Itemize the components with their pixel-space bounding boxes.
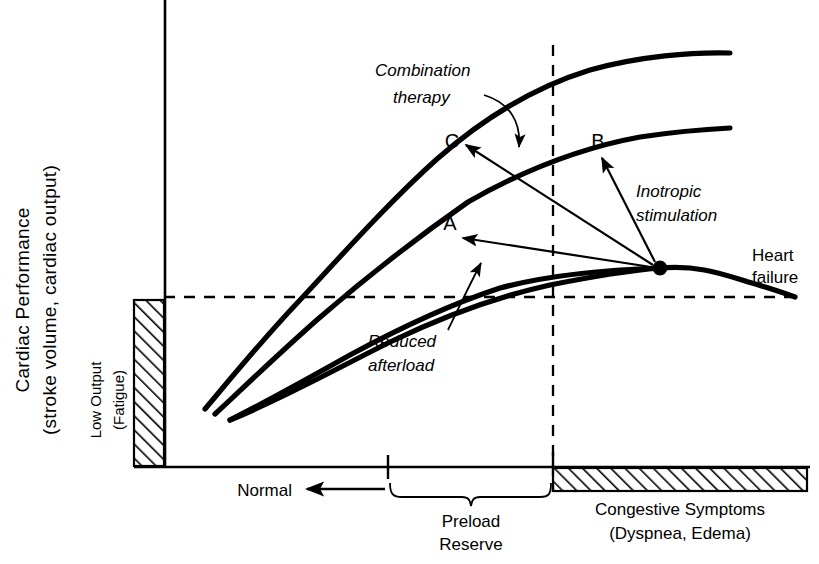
annotation-inotropic-line1: Inotropic xyxy=(636,182,702,201)
preload-reserve-label-line1: Preload xyxy=(442,512,501,531)
normal-range-label: Normal xyxy=(237,481,292,500)
annotation-inotropic-stimulation: Inotropic stimulation xyxy=(636,182,717,225)
curve-combination-therapy-C xyxy=(205,53,730,409)
y-axis-title-line2: (stroke volume, cardiac output) xyxy=(39,165,60,435)
heart-failure-label: Heart failure xyxy=(752,246,798,287)
annotation-reduced-line1: Reduced xyxy=(368,332,437,351)
low-output-region-label: Low Output (Fatigue) xyxy=(87,361,127,439)
cardiac-performance-diagram: Cardiac Performance (stroke volume, card… xyxy=(0,0,819,564)
curve-point-label-A: A xyxy=(443,212,457,234)
heart-failure-operating-point xyxy=(653,261,668,276)
curve-point-label-C: C xyxy=(445,130,459,152)
annotation-combination-line1: Combination xyxy=(375,61,470,80)
heart-failure-label-line2: failure xyxy=(752,268,798,287)
congestive-symptoms-hatched-band xyxy=(553,468,807,491)
curve-point-label-B: B xyxy=(591,130,604,152)
low-output-hatched-band xyxy=(134,300,164,466)
preload-reserve-label-line2: Reserve xyxy=(439,535,502,554)
annotation-reduced-line2: afterload xyxy=(368,356,435,375)
heart-failure-label-line1: Heart xyxy=(752,246,794,265)
preload-reserve-brace xyxy=(390,483,551,506)
low-output-label-line2: (Fatigue) xyxy=(110,370,127,430)
curve-reduced-afterload-A xyxy=(230,268,660,420)
congestive-symptoms-label-line2: (Dyspnea, Edema) xyxy=(609,524,751,543)
annotation-combination-line2: therapy xyxy=(393,88,451,107)
y-axis-title: Cardiac Performance (stroke volume, card… xyxy=(12,165,60,435)
y-axis-title-line1: Cardiac Performance xyxy=(12,207,33,392)
annotation-inotropic-line2: stimulation xyxy=(636,206,717,225)
congestive-symptoms-label-line1: Congestive Symptoms xyxy=(595,500,765,519)
low-output-label-line1: Low Output xyxy=(87,361,104,439)
curve-heart-failure xyxy=(230,267,795,420)
therapy-vector-to-A xyxy=(463,238,651,267)
